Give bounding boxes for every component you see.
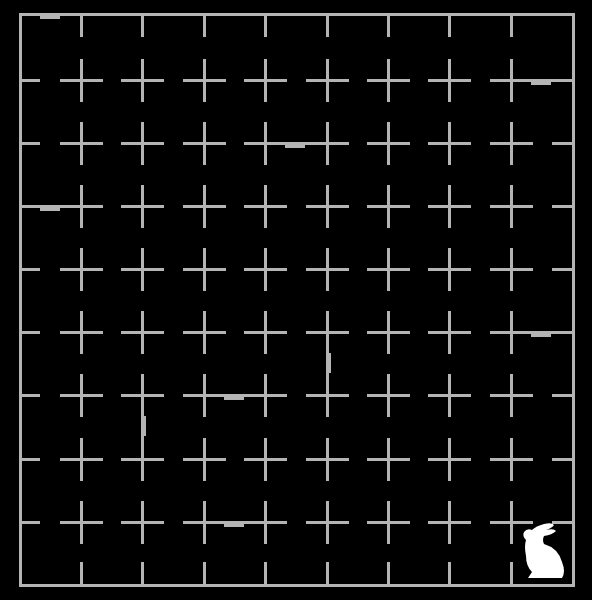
cross-marker <box>203 59 206 102</box>
cross-marker <box>326 248 329 291</box>
wall-stub <box>552 205 573 208</box>
cross-marker <box>80 501 83 544</box>
cross-marker <box>264 311 267 354</box>
cross-marker <box>203 185 206 228</box>
cross-marker <box>80 122 83 165</box>
door-marker <box>285 142 305 148</box>
cross-marker <box>264 248 267 291</box>
wall-stub <box>19 268 40 271</box>
rabbit-icon[interactable] <box>518 522 568 578</box>
cross-marker <box>80 374 83 417</box>
cross-marker <box>80 311 83 354</box>
wall-stub <box>19 331 40 334</box>
cross-marker <box>387 185 390 228</box>
cross-marker <box>510 374 513 417</box>
door-marker <box>224 521 244 527</box>
door-marker <box>40 13 60 19</box>
frame-left <box>19 13 22 587</box>
cross-marker <box>510 248 513 291</box>
door-marker <box>224 394 244 400</box>
wall-stub <box>510 562 513 584</box>
wall-stub <box>80 562 83 584</box>
wall-stub <box>448 13 451 37</box>
cross-marker <box>80 248 83 291</box>
cross-marker <box>264 59 267 102</box>
door-marker <box>326 353 331 373</box>
door-marker <box>531 79 551 85</box>
cross-marker <box>510 122 513 165</box>
wall-stub <box>203 13 206 37</box>
cross-marker <box>141 248 144 291</box>
cross-marker <box>141 185 144 228</box>
wall-stub <box>552 458 573 461</box>
wall-stub <box>141 13 144 37</box>
wall-stub <box>326 13 329 37</box>
cross-marker <box>141 311 144 354</box>
wall-stub <box>203 562 206 584</box>
wall-stub <box>510 13 513 37</box>
cross-marker <box>141 501 144 544</box>
wall-stub <box>552 268 573 271</box>
frame-bottom <box>19 584 575 587</box>
wall-stub <box>19 521 40 524</box>
cross-marker <box>203 248 206 291</box>
cross-marker <box>80 438 83 481</box>
cross-marker <box>264 185 267 228</box>
cross-marker <box>448 438 451 481</box>
cross-marker <box>448 311 451 354</box>
frame-top <box>19 13 575 16</box>
wall-stub <box>19 79 40 82</box>
wall-stub <box>448 562 451 584</box>
frame-right <box>572 13 575 587</box>
door-marker <box>141 416 146 436</box>
wall-stub <box>141 562 144 584</box>
cross-marker <box>387 59 390 102</box>
cross-marker <box>326 185 329 228</box>
cross-marker <box>387 122 390 165</box>
wall-stub <box>552 394 573 397</box>
door-marker <box>531 331 551 337</box>
cross-marker <box>264 438 267 481</box>
wall-stub <box>19 458 40 461</box>
cross-marker <box>448 501 451 544</box>
wall-stub <box>264 562 267 584</box>
cross-marker <box>141 59 144 102</box>
cross-marker <box>203 438 206 481</box>
cross-marker <box>510 185 513 228</box>
cross-marker <box>448 185 451 228</box>
cross-marker <box>387 248 390 291</box>
cross-marker <box>326 501 329 544</box>
cross-marker <box>203 122 206 165</box>
cross-marker <box>326 59 329 102</box>
wall-stub <box>19 142 40 145</box>
cross-marker <box>387 501 390 544</box>
wall-stub <box>19 394 40 397</box>
cross-marker <box>141 122 144 165</box>
cross-marker <box>326 438 329 481</box>
cross-marker <box>448 248 451 291</box>
wall-stub <box>326 562 329 584</box>
wall-stub <box>80 13 83 37</box>
cross-marker <box>387 374 390 417</box>
wall-stub <box>387 13 390 37</box>
cross-marker <box>448 374 451 417</box>
wall-stub <box>387 562 390 584</box>
wall-stub <box>264 13 267 37</box>
cross-marker <box>448 122 451 165</box>
cross-marker <box>448 59 451 102</box>
cross-marker <box>510 501 513 544</box>
cross-marker <box>387 438 390 481</box>
cross-marker <box>387 311 390 354</box>
cross-marker <box>80 59 83 102</box>
door-marker <box>40 205 60 211</box>
cross-marker <box>510 438 513 481</box>
maze-board[interactable] <box>0 0 592 600</box>
wall-stub <box>552 142 573 145</box>
cross-marker <box>203 311 206 354</box>
